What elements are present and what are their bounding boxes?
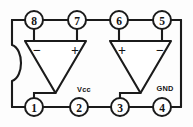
wire-amp-right-output-to-pin3 (120, 93, 141, 98)
schematic-canvas: − + + − 8 7 6 5 1 (0, 0, 193, 127)
pin-3[interactable]: 3 (111, 98, 129, 116)
pin-5-number: 5 (159, 15, 165, 27)
pin-7-number: 7 (74, 15, 80, 27)
pin-3-number: 3 (117, 102, 123, 114)
amp-right-inverting-sign: − (156, 43, 164, 58)
pin-7[interactable]: 7 (68, 11, 86, 29)
pin-2[interactable]: 2 (70, 98, 88, 116)
vcc-label: Vcc (77, 85, 91, 94)
pin-6[interactable]: 6 (110, 11, 128, 29)
amp-right-noninverting-sign: + (118, 43, 126, 58)
gnd-label: GND (156, 84, 173, 93)
pin-8-number: 8 (31, 15, 37, 27)
pin-5[interactable]: 5 (153, 11, 171, 29)
amp-left-inverting-sign: − (33, 43, 41, 58)
pin-4[interactable]: 4 (153, 98, 171, 116)
ic-pinout-diagram: − + + − 8 7 6 5 1 (0, 0, 193, 127)
wire-amp-left-output-to-pin1 (34, 93, 56, 98)
pin-1[interactable]: 1 (25, 98, 43, 116)
amp-left-noninverting-sign: + (71, 43, 79, 58)
pin-1-number: 1 (31, 102, 37, 114)
pin-6-number: 6 (116, 15, 122, 27)
pin-4-number: 4 (159, 102, 165, 114)
pin-2-number: 2 (76, 102, 82, 114)
pin-8[interactable]: 8 (25, 11, 43, 29)
